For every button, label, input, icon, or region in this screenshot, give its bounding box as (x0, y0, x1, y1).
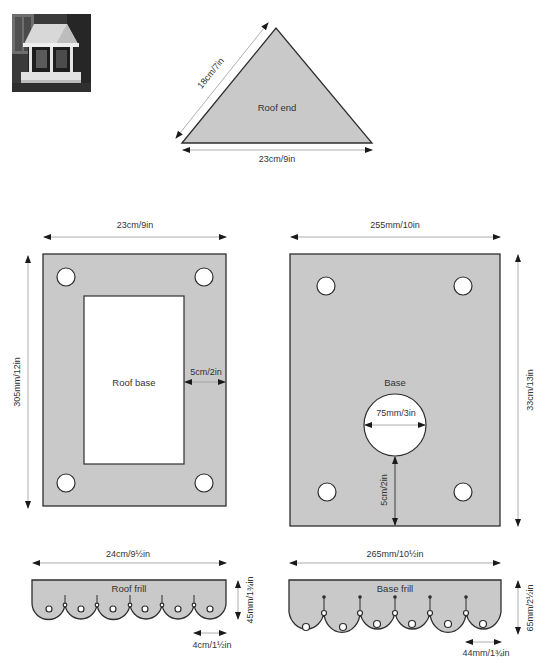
roof-end-label: Roof end (258, 102, 297, 113)
base-width-dimension: 255mm/10in (370, 220, 420, 230)
base-piece: Base 75mm/3in 5cm/2in 255mm/10in 33cm/13… (290, 220, 535, 526)
base-hole-top-left (317, 277, 335, 295)
base-hole-top-right (454, 277, 472, 295)
base-height-dimension: 33cm/13in (525, 369, 535, 411)
roof-base-hole-bottom-left (57, 474, 75, 492)
roof-frill-scallop-dimension: 4cm/1½in (192, 640, 231, 650)
roof-base-piece: Roof base 23cm/9in 305mm/12in 5cm/2in (12, 220, 226, 508)
roof-base-hole-top-left (57, 268, 75, 286)
roof-base-label: Roof base (112, 377, 155, 388)
roof-frill-piece: Roof frill 24cm/9½in 45mm/1¾in 4cm/1½in (32, 549, 255, 650)
base-frill-scallop-dimension: 44mm/1¾in (462, 648, 509, 658)
base-hole-bottom-right (454, 483, 472, 501)
base-hole-bottom-left (318, 483, 336, 501)
roof-end-piece: Roof end 18cm/7in 23cm/9in (176, 23, 372, 164)
roof-frill-label: Roof frill (112, 583, 147, 594)
roof-base-height-dimension: 305mm/12in (12, 357, 22, 407)
base-frill-height-dimension: 65mm/2½in (525, 584, 535, 631)
roof-end-side-dimension: 18cm/7in (195, 56, 226, 91)
roof-base-hole-top-right (195, 268, 213, 286)
roof-base-border-dimension: 5cm/2in (190, 367, 222, 377)
base-frill-label: Base frill (377, 583, 413, 594)
templates-diagram: Roof end 18cm/7in 23cm/9in Roof base 23c… (0, 0, 551, 660)
roof-end-shape (182, 28, 372, 143)
roof-base-hole-bottom-right (195, 474, 213, 492)
roof-base-width-dimension: 23cm/9in (117, 220, 154, 230)
base-hole-dimension: 75mm/3in (376, 408, 416, 418)
base-label: Base (384, 377, 406, 388)
roof-end-base-dimension: 23cm/9in (259, 154, 296, 164)
base-hole-offset-dimension: 5cm/2in (379, 474, 389, 506)
base-frill-width-dimension: 265mm/10½in (366, 549, 423, 559)
roof-frill-height-dimension: 45mm/1¾in (245, 576, 255, 623)
base-frill-piece: Base frill 265mm/10½in 65mm/2½in 44mm/1¾… (289, 549, 535, 658)
roof-frill-width-dimension: 24cm/9½in (106, 549, 150, 559)
